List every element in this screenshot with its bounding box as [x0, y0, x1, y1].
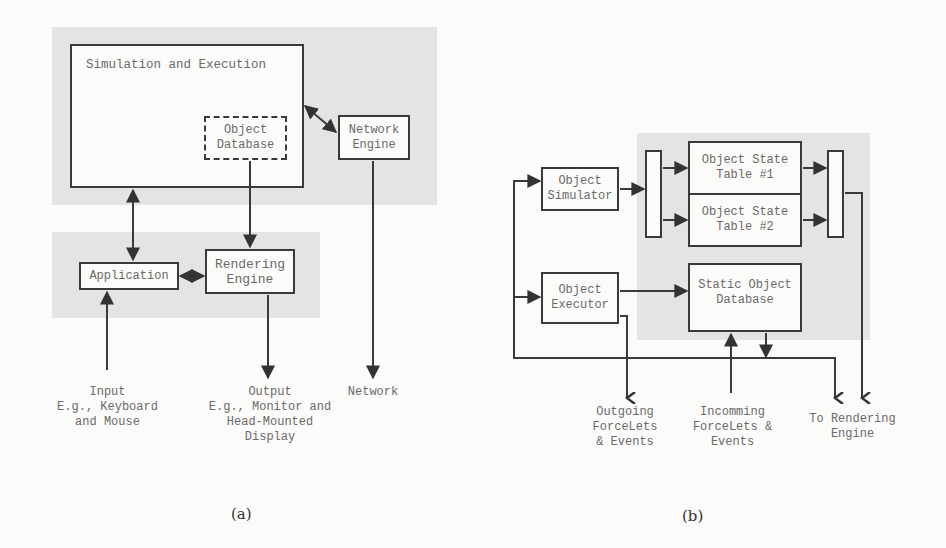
object-database-box: Object Database [204, 116, 287, 160]
object-database-label: Object Database [217, 123, 275, 153]
network-engine-label: Network Engine [349, 123, 399, 153]
outgoing-arrow [620, 316, 627, 398]
to-rendering-engine-label: To Rendering Engine [795, 412, 910, 442]
application-box: Application [79, 262, 179, 290]
static-object-database-box: Static Object Database [688, 263, 802, 332]
rendering-engine-box: Rendering Engine [205, 249, 295, 294]
input-mux-bar [645, 150, 662, 238]
object-state-table-2-box: Object State Table #2 [688, 193, 802, 247]
caption-a: (a) [231, 505, 252, 523]
object-executor-box: Object Executor [541, 272, 619, 324]
simulation-and-execution-label: Simulation and Execution [86, 58, 266, 73]
object-simulator-label: Object Simulator [548, 174, 613, 204]
object-state-table-2-label: Object State Table #2 [702, 205, 788, 235]
incoming-forcelets-label: Incomming ForceLets & Events [680, 405, 785, 450]
application-label: Application [89, 269, 168, 284]
object-state-table-1-label: Object State Table #1 [702, 153, 788, 183]
output-label: Output E.g., Monitor and Head-Mounted Di… [195, 385, 345, 445]
input-label: Input E.g., Keyboard and Mouse [45, 385, 170, 430]
outgoing-forcelets-label: Outgoing ForceLets & Events [575, 405, 675, 450]
output-mux-bar [827, 150, 844, 238]
rendering-engine-label: Rendering Engine [215, 257, 285, 287]
static-object-database-label: Static Object Database [698, 278, 792, 308]
caption-b: (b) [682, 507, 703, 525]
network-engine-box: Network Engine [338, 115, 410, 160]
network-label: Network [333, 385, 413, 400]
object-simulator-box: Object Simulator [541, 167, 619, 211]
object-state-table-1-box: Object State Table #1 [688, 141, 802, 195]
object-executor-label: Object Executor [551, 283, 609, 313]
